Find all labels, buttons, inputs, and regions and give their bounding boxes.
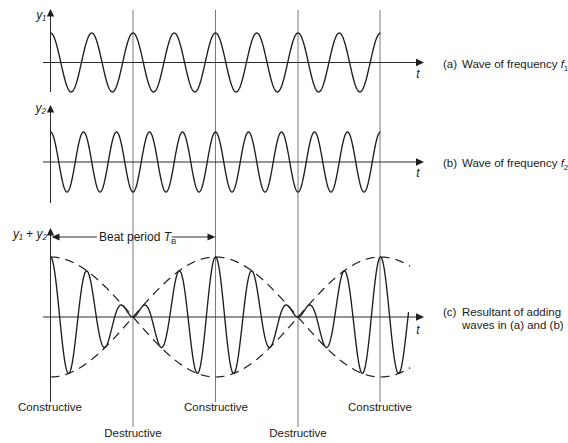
caption-line-2: waves in (a) and (b) [461, 319, 564, 331]
x-axis-arrow-icon [416, 313, 424, 320]
x-axis-label-a: t [416, 67, 420, 81]
caption-line-1: Resultant of adding [462, 306, 561, 318]
y-axis-arrow-icon [47, 9, 54, 17]
panel-c: y₁ + y₂ t (c) Resultant of adding waves … [12, 227, 564, 402]
x-axis-label-b: t [416, 166, 420, 180]
annotation-destructive-1: Destructive [104, 427, 162, 439]
arrow-right-icon [208, 233, 216, 240]
x-axis-arrow-icon [416, 158, 424, 165]
caption-b: (b) Wave of frequency f2 [443, 157, 568, 172]
caption-a: (a) Wave of frequency f1 [443, 58, 568, 73]
beat-period-text: Beat period [99, 230, 164, 244]
caption-tag: (c) [443, 306, 457, 318]
guide-lines [133, 10, 380, 427]
y-axis-label-b: y₂ [34, 101, 46, 115]
beat-period-subscript: B [171, 237, 176, 246]
y-axis-label-a: y₁ [35, 8, 46, 22]
y-axis-arrow-icon [47, 228, 54, 236]
caption-tag: (a) [443, 58, 457, 70]
interference-annotations: Constructive Destructive Constructive De… [18, 401, 412, 439]
x-axis-arrow-icon [416, 59, 424, 66]
caption-text: Wave of frequency [462, 157, 561, 169]
wave-resultant [51, 257, 409, 373]
y-axis-label-c: y₁ + y₂ [12, 227, 47, 241]
caption-c: (c) Resultant of adding waves in (a) and… [443, 306, 564, 331]
x-axis-label-c: t [416, 323, 420, 337]
annotation-constructive-2: Constructive [184, 401, 248, 413]
beat-period-arrow: Beat period TB [52, 230, 216, 246]
caption-subscript: 2 [564, 163, 568, 172]
y-axis-arrow-icon [47, 105, 54, 113]
panel-a: y₁ t (a) Wave of frequency f1 [35, 8, 568, 92]
caption-text: Wave of frequency [462, 58, 561, 70]
annotation-constructive-3: Constructive [348, 401, 412, 413]
panel-b: y₂ t (b) Wave of frequency f2 [34, 101, 568, 203]
caption-subscript: 1 [564, 64, 568, 73]
beat-period-label: Beat period TB [99, 230, 176, 246]
caption-tag: (b) [443, 157, 457, 169]
beats-diagram: y₁ t (a) Wave of frequency f1 y₂ t (b) W… [0, 0, 568, 443]
annotation-constructive-1: Constructive [18, 401, 82, 413]
annotation-destructive-2: Destructive [269, 427, 327, 439]
